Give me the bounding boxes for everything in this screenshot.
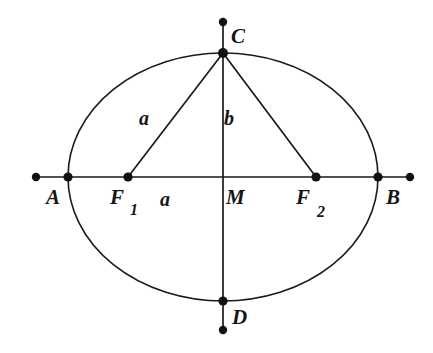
chord-c-f2 [223, 53, 316, 177]
segment-label-b: b [224, 108, 234, 128]
left-axis-end-dot [32, 173, 40, 181]
point-label-f1: F [110, 187, 124, 208]
bottom-axis-end-dot [219, 326, 227, 334]
diagram-canvas [0, 0, 433, 353]
right-axis-end-dot [406, 173, 414, 181]
point-label-m: M [226, 187, 245, 208]
point-dot-a [63, 172, 72, 181]
point-label-c: C [231, 26, 245, 47]
point-label-b: B [386, 187, 400, 208]
point-label-f2: F [296, 187, 310, 208]
segment-label-a-upper: a [139, 108, 149, 128]
point-dot-f2 [311, 172, 320, 181]
point-dot-b [373, 172, 382, 181]
point-label-f1-subscript: 1 [130, 202, 138, 218]
segment-label-a-lower: a [160, 189, 170, 209]
point-label-d: D [232, 307, 247, 328]
point-dot-f1 [123, 172, 132, 181]
ellipse-diagram: A B C D F 1 F 2 M a b a [0, 0, 433, 353]
point-label-a: A [46, 187, 60, 208]
point-dot-c [218, 48, 228, 58]
point-label-f2-subscript: 2 [317, 204, 325, 220]
top-axis-end-dot [219, 18, 227, 26]
point-dot-d [218, 296, 227, 305]
